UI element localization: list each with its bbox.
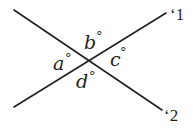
svg-text:°: ° [89,68,96,83]
svg-text:°: ° [96,28,103,43]
svg-text:°: ° [120,44,127,59]
svg-text:a: a [53,52,64,74]
angle-c-label: c ° [110,44,127,70]
angle-d-label: d ° [76,68,96,92]
angle-a-label: a ° [53,50,72,74]
line-2-label: ‘2 [164,106,178,125]
line-1 [14,13,166,107]
intersecting-lines-diagram: ‘1 ‘2 a ° b ° c ° d ° [0,0,193,129]
svg-text:d: d [76,70,88,92]
line-1-label: ‘1 [170,5,184,24]
svg-text:°: ° [65,50,72,65]
svg-text:b: b [84,31,96,53]
line-2 [14,10,162,110]
angle-b-label: b ° [84,28,103,53]
